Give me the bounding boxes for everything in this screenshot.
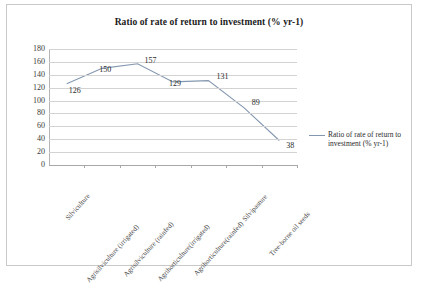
x-category-label: Tree-borne oil seeds [268,210,312,258]
gridline [49,62,297,63]
x-axis-tick [84,165,85,168]
gridline [49,152,297,153]
y-tick-label: 120 [21,84,45,92]
y-tick-label: 140 [21,71,45,79]
x-axis-tick [297,165,298,168]
x-category-label: Silvipasture [241,193,269,223]
x-category-label: Agrisilviculture (irrigated) [85,223,141,284]
y-tick-label: 100 [21,97,45,105]
x-axis-tick [155,165,156,168]
legend-line-swatch [309,135,325,136]
data-point-label: 157 [145,57,157,65]
y-tick-label: 80 [21,109,45,117]
series-line [49,49,297,165]
chart-legend: Ratio of rate of return to investment (%… [309,130,411,148]
y-tick-label: 180 [21,45,45,53]
y-tick-label: 40 [21,135,45,143]
x-axis-tick [120,165,121,168]
gridline [49,113,297,114]
y-tick-label: 20 [21,148,45,156]
x-axis-tick [226,165,227,168]
chart-title: Ratio of rate of return to investment (%… [7,17,411,27]
gridline [49,139,297,140]
gridline [49,126,297,127]
plot-area: 1261501571291318938 [49,49,297,165]
x-category-label: Silviculture [64,192,92,222]
y-tick-label: 0 [21,161,45,169]
data-point-label: 38 [286,142,294,150]
x-axis-line [49,165,297,166]
y-tick-label: 60 [21,122,45,130]
gridline [49,49,297,50]
data-point-label: 89 [252,99,260,107]
y-tick-label: 160 [21,58,45,66]
x-axis-tick [191,165,192,168]
gridline [49,75,297,76]
data-point-label: 150 [99,66,111,74]
data-point-label: 126 [69,87,81,95]
x-axis-category-labels: SilvicultureAgrisilviculture (irrigated)… [49,168,297,263]
legend-label: Ratio of rate of return to investment (%… [328,130,411,148]
x-axis-tick [262,165,263,168]
y-axis-tick-labels: 180160140120100806040200 [19,49,45,165]
chart-frame: Ratio of rate of return to investment (%… [6,4,412,266]
data-point-label: 129 [169,80,181,88]
data-point-label: 131 [216,73,228,81]
